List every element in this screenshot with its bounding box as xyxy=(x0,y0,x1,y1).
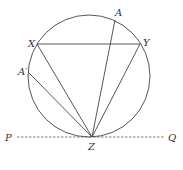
label-y: Y xyxy=(143,37,151,48)
label-a-prime: A′ xyxy=(17,66,28,77)
label-q: Q xyxy=(168,132,176,143)
label-x: X xyxy=(27,38,36,49)
segment-yz xyxy=(92,44,140,137)
geometry-diagram: A X Y A′ Z P Q xyxy=(0,0,183,170)
segment-a-prime-z xyxy=(29,73,92,137)
label-p: P xyxy=(4,132,12,143)
label-z: Z xyxy=(87,141,96,152)
label-a: A xyxy=(114,7,122,18)
segment-az xyxy=(92,20,115,137)
circle xyxy=(28,15,150,137)
segment-xz xyxy=(37,44,92,137)
